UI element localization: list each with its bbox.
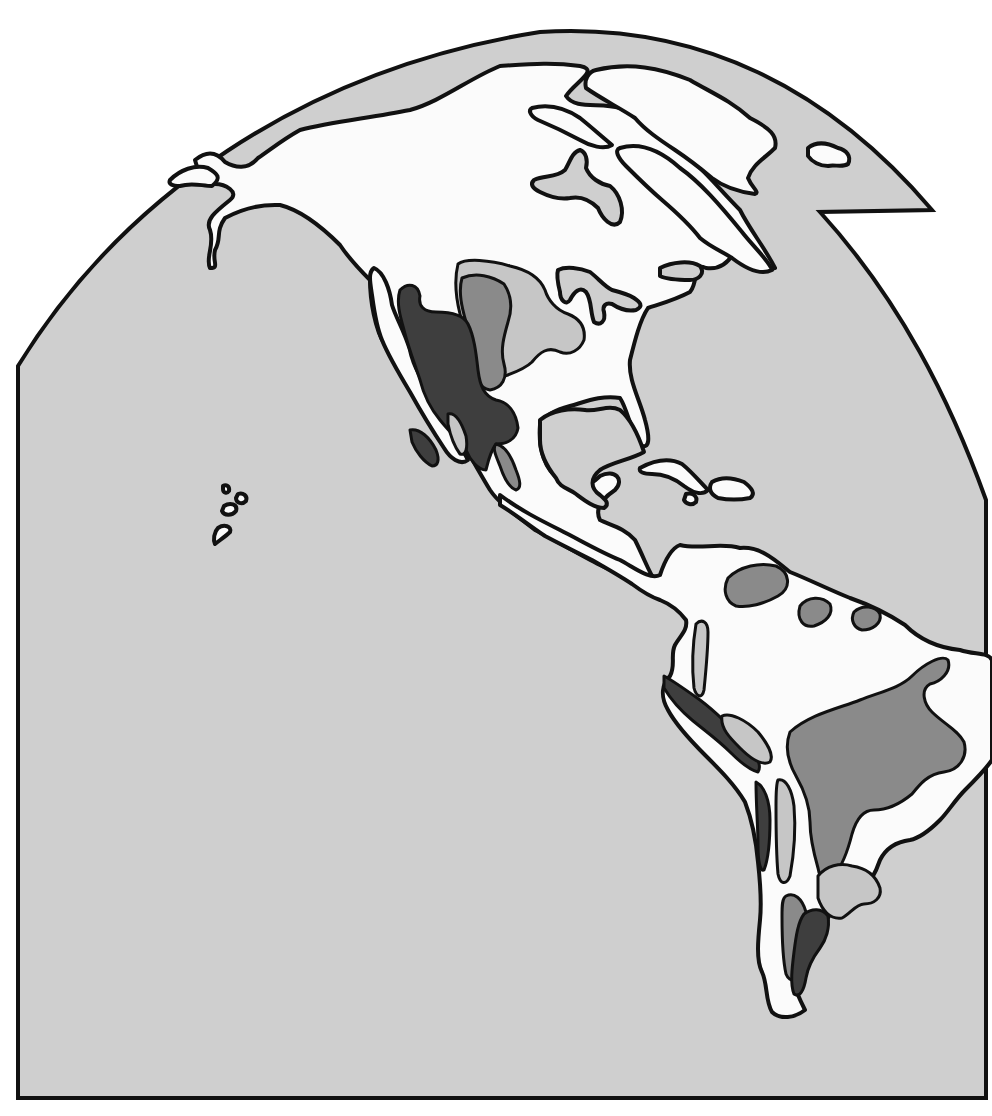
zone-andean-puna-north <box>693 621 708 696</box>
gulf-of-st-lawrence <box>660 262 702 280</box>
jamaica <box>684 493 696 504</box>
zone-guiana-savanna-2 <box>852 607 880 630</box>
zone-andean-puna-south <box>776 780 795 883</box>
map-canvas <box>0 0 992 1116</box>
hawaii-island-3 <box>222 504 236 515</box>
aleutian-island <box>169 167 217 186</box>
hispaniola <box>710 478 753 499</box>
hawaii-island-1 <box>223 485 229 493</box>
biome-map <box>0 0 992 1116</box>
hawaii-island-2 <box>236 493 246 503</box>
